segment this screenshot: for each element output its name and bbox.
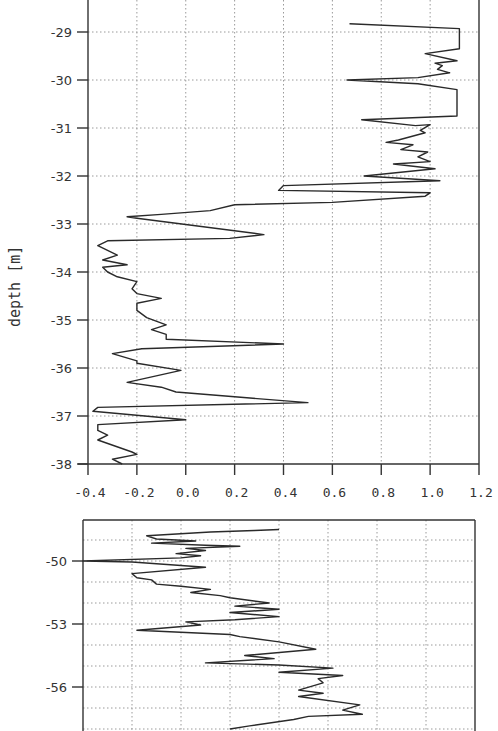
x-tick-label: 0.2: [225, 485, 248, 500]
y-tick-label: -29: [51, 25, 72, 40]
x-tick-label: 0.8: [372, 485, 395, 500]
x-tick-label: -0.2: [123, 485, 154, 500]
x-tick-label: 0.6: [323, 485, 346, 500]
x-tick-label: -0.4: [74, 485, 105, 500]
y-tick-label: -32: [51, 169, 72, 184]
y-tick-label: -38: [51, 457, 72, 472]
y-tick-label: -53: [46, 617, 67, 632]
profile-curve: [83, 530, 362, 730]
y-tick-label: -36: [51, 361, 72, 376]
y-tick-label: -35: [51, 313, 72, 328]
x-tick-label: 1.0: [420, 485, 443, 500]
profile-curve: [93, 24, 460, 464]
y-axis-title: depth [m]: [6, 246, 24, 327]
y-tick-label: -31: [51, 121, 72, 136]
x-tick-label: 0.4: [274, 485, 298, 500]
depth-profile-charts: -29-30-31-32-33-34-35-36-37-38-0.4-0.20.…: [0, 0, 498, 731]
x-tick-label: 1.2: [469, 485, 492, 500]
y-tick-label: -56: [46, 680, 67, 695]
y-tick-label: -34: [51, 265, 72, 280]
top-depth-profile-panel: -29-30-31-32-33-34-35-36-37-38-0.4-0.20.…: [6, 0, 493, 500]
y-tick-label: -33: [51, 217, 72, 232]
y-tick-label: -30: [51, 73, 72, 88]
bottom-depth-profile-panel: -50-53-56: [46, 520, 475, 731]
x-tick-label: 0.0: [176, 485, 199, 500]
y-tick-label: -50: [46, 554, 67, 569]
y-tick-label: -37: [51, 409, 72, 424]
